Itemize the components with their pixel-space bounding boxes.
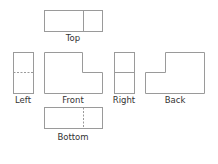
orthographic-diagram [0,0,218,164]
back-view-label: Back [145,95,205,105]
top-view-label: Top [43,33,103,43]
top-view [45,11,103,32]
right-view [115,53,135,94]
left-view [14,53,34,94]
bottom-view [45,108,103,129]
bottom-view-label: Bottom [43,132,103,142]
back-view [146,53,205,94]
front-view [45,53,103,94]
